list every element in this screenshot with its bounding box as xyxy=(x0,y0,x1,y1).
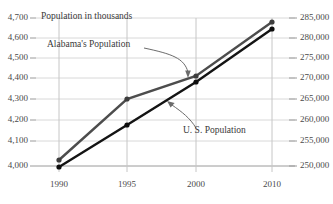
y-left-tick-4100: 4,100 xyxy=(0,136,28,145)
y-left-tick-4300: 4,300 xyxy=(0,94,28,103)
data-point xyxy=(193,79,198,84)
x-tick-2000: 2000 xyxy=(171,180,221,189)
chart-title-population-in-thousands: Population in thousands xyxy=(41,12,132,22)
series-callout-label-alabama: Alabama's Population xyxy=(47,40,130,50)
data-point xyxy=(124,122,129,127)
x-tick-1995: 1995 xyxy=(102,180,152,189)
y-right-tick-265000: 265,000 xyxy=(300,94,329,103)
y-left-tick-4700: 4,700 xyxy=(0,13,28,22)
y-right-tick-275000: 275,000 xyxy=(300,53,329,62)
series-line-us xyxy=(59,29,272,167)
y-left-tick-4200: 4,200 xyxy=(0,115,28,124)
y-left-tick-4000: 4,000 xyxy=(0,161,28,170)
y-left-tick-4400: 4,400 xyxy=(0,73,28,82)
data-point xyxy=(124,96,129,101)
y-right-tick-285000: 285,000 xyxy=(300,13,329,22)
chart-canvas xyxy=(0,0,333,204)
x-tick-2010: 2010 xyxy=(247,180,297,189)
y-left-tick-4600: 4,600 xyxy=(0,33,28,42)
callout-arrow-alabama xyxy=(144,48,191,78)
series-callout-label-us: U. S. Population xyxy=(183,126,246,136)
y-left-tick-4500: 4,500 xyxy=(0,53,28,62)
right-axis-ticks xyxy=(289,18,297,166)
y-right-tick-255000: 255,000 xyxy=(300,136,329,145)
x-tick-1990: 1990 xyxy=(34,180,84,189)
y-right-tick-280000: 280,000 xyxy=(300,33,329,42)
left-axis-ticks xyxy=(30,18,36,166)
callout-arrow-us xyxy=(167,101,196,128)
population-line-chart: 4,700 4,600 4,500 4,400 4,300 4,200 4,10… xyxy=(0,0,333,204)
data-point xyxy=(193,73,198,78)
data-point xyxy=(56,164,61,169)
data-point xyxy=(269,26,274,31)
y-right-tick-270000: 270,000 xyxy=(300,73,329,82)
y-right-tick-250000: 250,000 xyxy=(300,161,329,170)
y-right-tick-260000: 260,000 xyxy=(300,115,329,124)
gridlines-horizontal xyxy=(36,18,295,141)
data-point xyxy=(56,157,61,162)
data-point xyxy=(269,19,274,24)
